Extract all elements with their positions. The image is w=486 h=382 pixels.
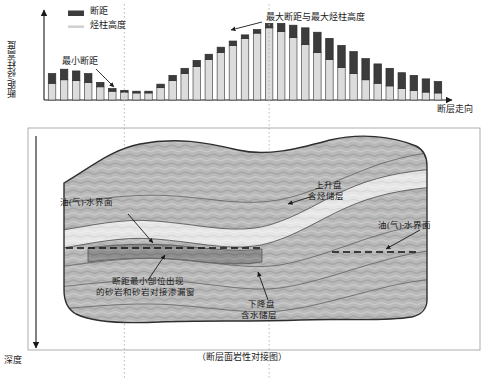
annotation-min-throw: 最小断距 xyxy=(62,56,98,66)
bar-segment-throw xyxy=(181,68,188,73)
bar-segment-throw xyxy=(193,60,200,66)
bar-segment-column xyxy=(84,82,91,100)
bar-segment-column xyxy=(97,87,104,100)
bar-segment-column xyxy=(422,92,429,100)
bar-segment-throw xyxy=(157,84,164,88)
bar-segment-throw xyxy=(48,74,55,84)
label-owc-right: 油(气)-水界面 xyxy=(378,221,432,231)
bar-segment-column xyxy=(145,93,152,100)
legend-swatch-throw xyxy=(68,11,84,17)
bar-segment-throw xyxy=(133,91,140,93)
bar-segment-column xyxy=(157,88,164,100)
bar-segment-column xyxy=(302,45,309,100)
depth-axis-label: 深度 xyxy=(4,355,22,365)
bar-segment-column xyxy=(253,33,260,100)
bar-segment-column xyxy=(350,74,357,100)
chart-annotation-leaders xyxy=(96,22,262,87)
bar-segment-column xyxy=(374,83,381,100)
label-upthrown-line1: 上升盘 xyxy=(315,181,342,191)
bar-segment-throw xyxy=(362,59,369,80)
bar-segment-column xyxy=(72,81,79,100)
legend-swatch-column xyxy=(68,26,84,28)
chart-y-axis-label: 断距/烃柱高度 xyxy=(4,12,17,98)
bar-segment-column xyxy=(109,91,116,100)
chart-x-axis-label: 断层走向 xyxy=(437,104,473,114)
bar-segment-column xyxy=(398,89,405,100)
bar-segment-column xyxy=(48,83,55,100)
bar-segment-throw xyxy=(374,64,381,83)
bar-segment-throw xyxy=(314,32,321,52)
bar-segment-throw xyxy=(241,35,248,39)
bar-segment-throw xyxy=(398,73,405,89)
bar-segment-throw xyxy=(434,82,441,93)
bar-segment-throw xyxy=(338,45,345,67)
bar-group xyxy=(48,23,441,100)
bar-segment-throw xyxy=(277,23,284,31)
label-owc-left: 油(气)-水界面 xyxy=(60,198,114,208)
bar-segment-column xyxy=(386,86,393,100)
label-downthrown-line2: 含水储层 xyxy=(241,311,277,321)
cross-section-caption: （断层面岩性对接图） xyxy=(197,352,287,362)
bar-segment-throw xyxy=(229,41,236,45)
bar-segment-column xyxy=(217,52,224,100)
bar-segment-throw xyxy=(109,89,116,92)
bar-segment-throw xyxy=(290,25,297,37)
annotation-max-throw: 最大断距与最大烃柱高度 xyxy=(266,12,365,22)
bar-segment-throw xyxy=(422,79,429,92)
bar-segment-throw xyxy=(121,90,128,92)
bar-segment-column xyxy=(181,74,188,100)
legend-label-throw: 断距 xyxy=(90,6,108,16)
bar-segment-column xyxy=(314,52,321,100)
max-throw-leader xyxy=(231,22,262,30)
bar-segment-throw xyxy=(205,54,212,59)
bar-segment-column xyxy=(133,93,140,100)
bar-segment-column xyxy=(60,80,67,100)
label-leak-window-line1: 断距最小部位出现 xyxy=(112,277,184,287)
bar-segment-column xyxy=(169,81,176,100)
bar-segment-throw xyxy=(350,52,357,74)
bar-segment-throw xyxy=(410,75,417,90)
bar-segment-column xyxy=(338,67,345,100)
bar-segment-column xyxy=(205,60,212,100)
bar-segment-column xyxy=(229,45,236,100)
legend-label-column: 烃柱高度 xyxy=(90,20,126,30)
label-leak-window-line2: 的砂岩和砂岩对接渗漏窗 xyxy=(96,288,195,298)
bar-segment-throw xyxy=(60,69,67,80)
bar-segment-throw xyxy=(326,38,333,59)
bar-segment-column xyxy=(241,38,248,100)
bar-segment-throw xyxy=(72,71,79,81)
bar-segment-throw xyxy=(217,47,224,52)
figure-container: 断距/烃柱高度 断距 烃柱高度 最小断距 最大断距与最大烃柱高度 断层走向 油(… xyxy=(0,0,486,382)
bar-segment-throw xyxy=(169,75,176,80)
bar-segment-throw xyxy=(253,30,260,34)
bar-segment-column xyxy=(362,80,369,100)
bar-segment-throw xyxy=(145,91,152,93)
bar-segment-column xyxy=(326,60,333,100)
label-upthrown-line2: 含烃储层 xyxy=(308,192,344,202)
bar-segment-column xyxy=(193,67,200,100)
bar-segment-throw xyxy=(386,68,393,86)
bar-segment-column xyxy=(290,38,297,100)
bar-segment-throw xyxy=(97,82,104,86)
bar-segment-column xyxy=(277,31,284,100)
bar-segment-column xyxy=(434,93,441,100)
bar-segment-column xyxy=(410,90,417,100)
chart-legend xyxy=(68,11,84,28)
bar-segment-throw xyxy=(302,28,309,45)
label-downthrown-line1: 下降盘 xyxy=(248,300,275,310)
bar-segment-throw xyxy=(84,74,91,83)
